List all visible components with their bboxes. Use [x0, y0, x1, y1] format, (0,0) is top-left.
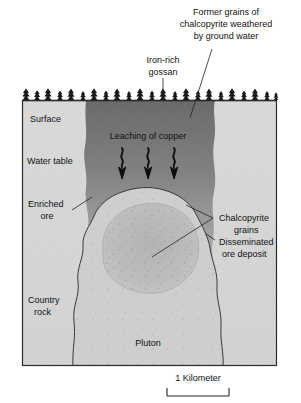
tree-icon	[126, 91, 132, 100]
callout-country-rock-line1: Country	[28, 295, 60, 305]
disseminated-ore-texture	[103, 203, 199, 293]
tree-icon	[241, 91, 247, 100]
callout-former-grains-line3: by ground water	[194, 31, 259, 41]
callout-disseminated-line1: Disseminated	[219, 237, 274, 247]
label-pluton: Pluton	[135, 338, 161, 348]
callout-enriched-ore-line2: ore	[40, 211, 53, 221]
tree-icon	[251, 89, 258, 100]
callout-gossan-line1: Iron-rich	[146, 55, 179, 65]
cross-section-diagram: Former grains of chalcopyrite weathered …	[0, 0, 301, 403]
tree-icon	[205, 89, 212, 100]
scale-bar-rule	[167, 388, 229, 396]
callout-gossan-line2: gossan	[148, 67, 177, 77]
tree-icon	[68, 89, 75, 100]
tree-icon	[114, 89, 121, 100]
tree-icon	[44, 88, 51, 100]
tree-icon	[80, 91, 86, 100]
scale-bar-label: 1 Kilometer	[175, 373, 221, 383]
label-surface: Surface	[30, 114, 61, 124]
callout-country-rock-line2: rock	[34, 307, 52, 317]
tree-icon	[57, 91, 63, 100]
tree-icon	[90, 88, 97, 100]
ground-surface	[22, 88, 278, 100]
tree-icon	[274, 92, 279, 100]
callout-former-grains-line1: Former grains of	[193, 7, 260, 17]
tree-icon	[22, 88, 29, 100]
tree-icon	[172, 91, 178, 100]
callout-iron-rich-gossan: Iron-rich gossan	[146, 55, 179, 77]
tree-icon	[218, 91, 224, 100]
callout-former-grains: Former grains of chalcopyrite weathered …	[180, 7, 273, 41]
callout-chalcopyrite-line1: Chalcopyrite	[219, 213, 269, 223]
tree-icon	[264, 91, 270, 100]
tree-icon	[136, 88, 143, 100]
tree-icon	[149, 91, 155, 100]
callout-disseminated-line2: ore deposit	[222, 249, 267, 259]
scale-bar: 1 Kilometer	[167, 373, 229, 396]
callout-enriched-ore-line1: Enriched	[28, 199, 64, 209]
tree-icon	[103, 91, 109, 100]
label-water-table: Water table	[27, 156, 73, 166]
callout-chalcopyrite-line2: grains	[234, 225, 259, 235]
label-leaching-of-copper: Leaching of copper	[110, 131, 187, 141]
tree-row	[22, 88, 278, 100]
tree-icon	[228, 88, 235, 100]
callout-former-grains-line2: chalcopyrite weathered	[180, 19, 273, 29]
figure-canvas: Former grains of chalcopyrite weathered …	[0, 0, 301, 403]
tree-icon	[34, 90, 40, 100]
tree-icon	[182, 88, 189, 100]
